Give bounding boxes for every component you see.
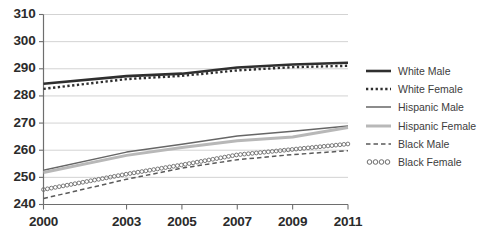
series-marker	[46, 187, 50, 191]
series-marker	[211, 157, 215, 161]
series-marker	[136, 170, 140, 174]
legend-item[interactable]: Black Male	[366, 135, 478, 153]
legend-swatch-icon	[366, 65, 392, 77]
legend-item[interactable]: White Female	[366, 80, 478, 98]
legend-marker	[373, 160, 378, 165]
series-marker	[235, 153, 239, 157]
series-marker	[290, 148, 294, 152]
series-marker	[179, 163, 183, 167]
series-marker	[342, 142, 346, 146]
x-tick-label: 2003	[97, 214, 157, 229]
series-marker	[215, 157, 219, 161]
x-axis-ticks	[44, 205, 349, 210]
data-series-group	[42, 63, 350, 199]
series-marker	[49, 186, 53, 190]
series-marker	[175, 164, 179, 168]
series-marker	[152, 168, 156, 172]
legend-marker	[379, 160, 384, 165]
series-line	[44, 151, 349, 199]
y-tick-label: 310	[14, 6, 36, 21]
y-tick-label: 280	[14, 87, 36, 102]
chart-legend: White MaleWhite FemaleHispanic MaleHispa…	[366, 62, 478, 171]
legend-swatch-icon	[366, 156, 392, 168]
series-marker	[219, 156, 223, 160]
legend-swatch-icon	[366, 83, 392, 95]
y-tick-label: 300	[14, 33, 36, 48]
series-marker	[81, 180, 85, 184]
series-marker	[164, 166, 168, 170]
series-marker	[326, 144, 330, 148]
series-marker	[61, 184, 65, 188]
series-black-female	[42, 142, 350, 191]
legend-label: Hispanic Female	[398, 120, 476, 132]
series-marker	[156, 167, 160, 171]
legend-label: Hispanic Male	[398, 101, 464, 113]
line-chart: 240250260270280290300310 200020032005200…	[0, 0, 479, 237]
legend-swatch-icon	[366, 120, 392, 132]
series-marker	[160, 166, 164, 170]
series-marker	[144, 169, 148, 173]
series-marker	[199, 160, 203, 164]
series-marker	[246, 152, 250, 156]
series-marker	[191, 161, 195, 165]
y-tick-label: 270	[14, 115, 36, 130]
x-tick-label: 2007	[207, 214, 267, 229]
series-marker	[128, 172, 132, 176]
series-marker	[168, 165, 172, 169]
series-marker	[318, 145, 322, 149]
legend-label: Black Male	[398, 138, 449, 150]
x-tick-label: 2000	[14, 214, 74, 229]
legend-label: White Female	[398, 83, 463, 95]
series-marker	[53, 185, 57, 189]
y-tick-label: 250	[14, 169, 36, 184]
legend-swatch-icon	[366, 101, 392, 113]
series-marker	[231, 154, 235, 158]
series-marker	[172, 164, 176, 168]
series-marker	[346, 142, 350, 146]
series-marker	[227, 155, 231, 159]
series-marker	[306, 146, 310, 150]
series-marker	[93, 178, 97, 182]
series-marker	[77, 181, 81, 185]
series-marker	[262, 150, 266, 154]
legend-item[interactable]: Hispanic Male	[366, 98, 478, 116]
series-marker	[250, 151, 254, 155]
series-marker	[124, 172, 128, 176]
x-tick-label: 2009	[263, 214, 323, 229]
legend-item[interactable]: White Male	[366, 62, 478, 80]
series-marker	[338, 143, 342, 147]
series-marker	[89, 179, 93, 183]
y-tick-label: 260	[14, 142, 36, 157]
series-marker	[203, 159, 207, 163]
series-marker	[187, 162, 191, 166]
series-marker	[132, 171, 136, 175]
legend-item[interactable]: Hispanic Female	[366, 117, 478, 135]
x-tick-label: 2011	[318, 214, 378, 229]
series-marker	[65, 183, 69, 187]
series-black-male	[44, 151, 349, 199]
y-tick-label: 290	[14, 60, 36, 75]
series-marker	[85, 180, 89, 184]
series-marker	[183, 162, 187, 166]
series-marker	[73, 182, 77, 186]
legend-label: Black Female	[398, 156, 462, 168]
series-marker	[310, 146, 314, 150]
series-marker	[148, 168, 152, 172]
y-tick-label: 240	[14, 196, 36, 211]
gridlines	[44, 15, 349, 205]
legend-marker	[385, 160, 390, 165]
series-marker	[207, 158, 211, 162]
series-marker	[195, 160, 199, 164]
legend-item[interactable]: Black Female	[366, 153, 478, 171]
series-marker	[223, 155, 227, 159]
series-marker	[334, 143, 338, 147]
series-marker	[314, 145, 318, 149]
legend-swatch-icon	[366, 138, 392, 150]
series-marker	[140, 170, 144, 174]
series-marker	[69, 183, 73, 187]
series-marker	[330, 144, 334, 148]
series-marker	[242, 152, 246, 156]
series-marker	[254, 151, 258, 155]
legend-label: White Male	[398, 65, 451, 77]
series-marker	[120, 173, 124, 177]
